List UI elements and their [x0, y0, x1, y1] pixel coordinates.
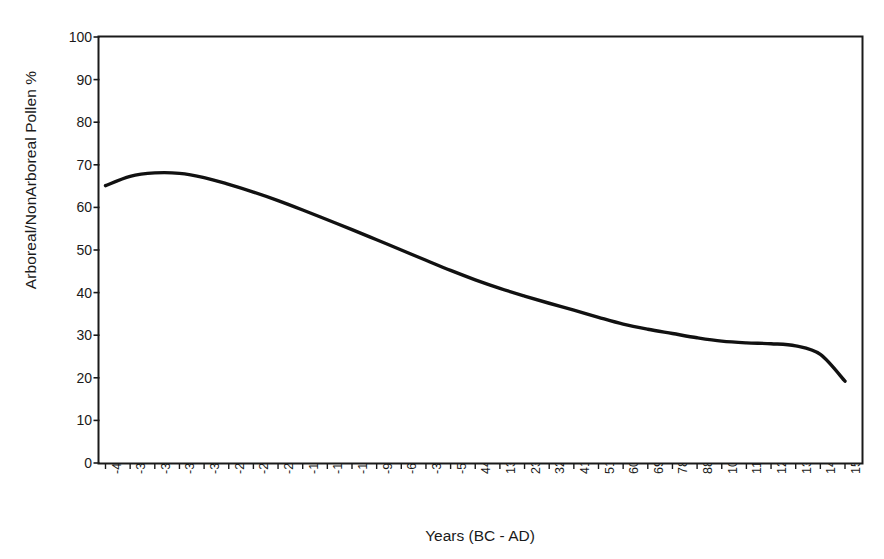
plot-border — [99, 37, 863, 464]
plot-area — [0, 0, 884, 559]
pollen-line-chart: Arboreal/NonArboreal Pollen % 1009080706… — [0, 0, 884, 559]
plot-frame — [99, 37, 863, 464]
